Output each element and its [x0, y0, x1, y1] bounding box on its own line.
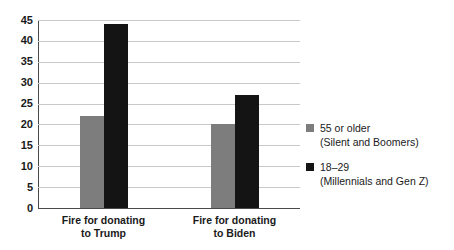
gridline — [38, 104, 300, 105]
y-tick-label: 25 — [3, 98, 33, 109]
gridline — [38, 20, 300, 21]
x-axis-label-line: to Biden — [170, 227, 300, 240]
bar-chart: 051015202530354045 Fire for donatingto T… — [0, 0, 454, 250]
y-tick-label: 15 — [3, 140, 33, 151]
gridline — [38, 124, 300, 125]
y-axis-tick-labels: 051015202530354045 — [0, 20, 33, 208]
gridline — [38, 166, 300, 167]
legend-item-younger[interactable]: 18–29 (Millennials and Gen Z) — [306, 161, 454, 189]
legend: 55 or older (Silent and Boomers) 18–29 (… — [306, 122, 454, 199]
y-tick-label: 35 — [3, 56, 33, 67]
plot-area — [38, 20, 300, 208]
gridline — [38, 187, 300, 188]
gridline — [38, 62, 300, 63]
legend-label-older: 55 or older — [320, 122, 370, 136]
x-axis-baseline — [38, 208, 300, 209]
x-axis-label-line: to Trump — [39, 227, 169, 240]
x-axis-label-line: Fire for donating — [39, 214, 169, 227]
y-tick-label: 40 — [3, 35, 33, 46]
bar — [211, 124, 235, 208]
y-tick-label: 45 — [3, 15, 33, 26]
legend-item-older[interactable]: 55 or older (Silent and Boomers) — [306, 122, 454, 150]
x-axis-category-label: Fire for donatingto Trump — [39, 214, 169, 241]
legend-swatch-icon-older — [306, 124, 314, 132]
bar — [80, 116, 104, 208]
y-tick-label: 20 — [3, 119, 33, 130]
legend-label-younger: 18–29 — [320, 161, 349, 175]
gridline — [38, 145, 300, 146]
y-tick-label: 10 — [3, 161, 33, 172]
x-axis-label-line: Fire for donating — [170, 214, 300, 227]
y-tick-label: 0 — [3, 203, 33, 214]
legend-sublabel-older: (Silent and Boomers) — [320, 136, 454, 150]
gridline — [38, 41, 300, 42]
y-tick-label: 5 — [3, 182, 33, 193]
gridline — [38, 83, 300, 84]
legend-sublabel-younger: (Millennials and Gen Z) — [320, 175, 454, 189]
x-axis-category-label: Fire for donatingto Biden — [170, 214, 300, 241]
legend-swatch-icon-younger — [306, 163, 314, 171]
y-tick-label: 30 — [3, 77, 33, 88]
bar — [235, 95, 259, 208]
bar — [104, 24, 128, 208]
